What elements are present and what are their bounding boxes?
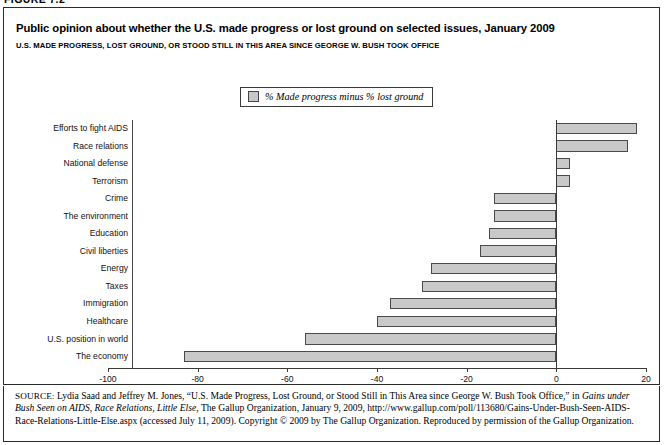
bar	[480, 245, 556, 256]
axis-tick	[467, 368, 468, 372]
bar	[377, 316, 556, 327]
source-note: SOURCE: Lydia Saad and Jeffrey M. Jones,…	[3, 386, 660, 442]
zero-baseline	[556, 120, 557, 368]
bar-row	[4, 331, 661, 349]
bar	[556, 175, 569, 186]
axis-tick-label: 0	[554, 374, 559, 384]
source-text-a: Lydia Saad and Jeffrey M. Jones, “U.S. M…	[55, 390, 582, 401]
bar	[494, 210, 557, 221]
bar-row	[4, 190, 661, 208]
bar	[494, 193, 557, 204]
source-label: SOURCE:	[15, 391, 55, 401]
bar-row	[4, 138, 661, 156]
axis-tick-label: -20	[460, 374, 472, 384]
bar-series	[4, 120, 661, 366]
bar-row	[4, 208, 661, 226]
bar	[390, 298, 556, 309]
bar-row	[4, 173, 661, 191]
axis-tick	[108, 368, 109, 372]
bar-row	[4, 155, 661, 173]
axis-tick-label: -100	[99, 374, 116, 384]
bar	[431, 263, 557, 274]
bar	[556, 140, 628, 151]
figure-container: FIGURE 7.2 Public opinion about whether …	[0, 0, 664, 445]
plot-area: Efforts to fight AIDSRace relationsNatio…	[4, 8, 661, 386]
bar-row	[4, 313, 661, 331]
figure-number-label: FIGURE 7.2	[4, 0, 65, 5]
axis-tick-label: -40	[371, 374, 383, 384]
bar	[556, 158, 569, 169]
bar	[556, 123, 637, 134]
axis-tick	[556, 368, 557, 372]
bar	[305, 333, 556, 344]
bar	[422, 281, 557, 292]
axis-tick	[287, 368, 288, 372]
chart-panel: Public opinion about whether the U.S. ma…	[3, 7, 660, 385]
bar-row	[4, 243, 661, 261]
bar-row	[4, 348, 661, 366]
bar	[184, 351, 556, 362]
bar-row	[4, 120, 661, 138]
axis-tick-label: -60	[281, 374, 293, 384]
bar-row	[4, 278, 661, 296]
axis-tick-label: 20	[641, 374, 651, 384]
bar-row	[4, 225, 661, 243]
bar	[489, 228, 556, 239]
axis-tick	[377, 368, 378, 372]
bar-row	[4, 295, 661, 313]
axis-tick	[646, 368, 647, 372]
source-italic-a: Gains	[582, 390, 605, 401]
axis-tick	[198, 368, 199, 372]
bar-row	[4, 260, 661, 278]
axis-tick-label: -80	[191, 374, 203, 384]
